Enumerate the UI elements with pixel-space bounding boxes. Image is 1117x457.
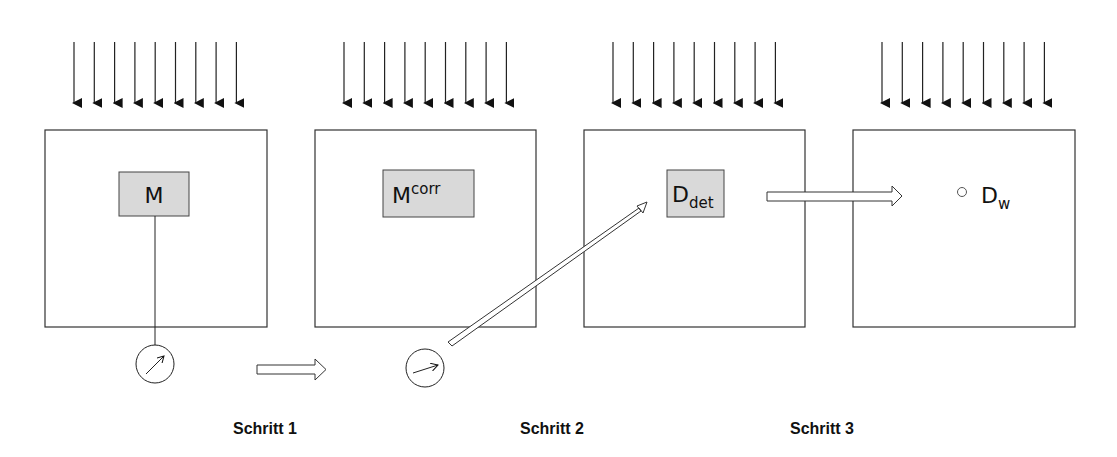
label-ddet-sub: det (689, 194, 714, 212)
dosimetry-diagram: M Mcorr Ddet Dw Schritt 1 Schritt 2 Sc (0, 0, 1117, 457)
step-1-arrow (257, 359, 326, 380)
svg-text:Dw: Dw (981, 183, 1010, 213)
label-m: M (145, 183, 164, 208)
label-dw-main: D (981, 183, 998, 208)
panel-2-frame (315, 130, 536, 327)
label-ddet-main: D (672, 182, 689, 207)
step-3-label: Schritt 3 (790, 420, 854, 437)
panel-1-frame (45, 130, 267, 327)
point-dw: Dw (958, 183, 1011, 213)
radiation-field-arrows (74, 42, 1044, 103)
panel-4-frame (853, 130, 1075, 327)
measurement-point-icon (958, 188, 967, 197)
step-2-arrow (448, 202, 647, 346)
detector-box-m: M (119, 172, 189, 216)
label-dw-sub: w (998, 195, 1010, 213)
step-1-label: Schritt 1 (233, 420, 297, 437)
meter-1-icon (136, 345, 174, 383)
meter-2-icon (406, 349, 444, 387)
detector-box-ddet: Ddet (667, 170, 724, 217)
step-3-arrow (767, 186, 902, 206)
step-2-label: Schritt 2 (520, 420, 584, 437)
detector-box-mcorr: Mcorr (383, 170, 474, 217)
label-mcorr-main: M (392, 183, 411, 208)
label-mcorr-sup: corr (411, 180, 441, 198)
